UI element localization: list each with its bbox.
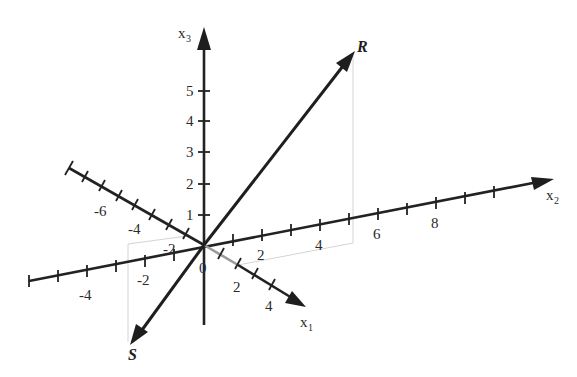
x1-tick-labels: -6 -4 -2 2 4 <box>94 203 273 314</box>
coordinate-diagram: R S x 3 x 2 x 1 0 1 2 3 4 5 -4 -2 2 4 6 … <box>0 0 577 377</box>
svg-text:x: x <box>546 187 554 203</box>
svg-text:4: 4 <box>315 237 323 253</box>
svg-text:4: 4 <box>186 113 194 129</box>
r-arrowhead-icon <box>336 51 355 72</box>
svg-text:4: 4 <box>265 298 273 314</box>
svg-text:-2: -2 <box>163 241 176 257</box>
svg-text:3: 3 <box>186 33 191 44</box>
svg-text:-2: -2 <box>137 272 150 288</box>
x2-axis-label: x 2 <box>546 187 559 206</box>
vector-s: S <box>128 245 204 363</box>
svg-text:-6: -6 <box>94 203 107 219</box>
svg-text:8: 8 <box>431 215 439 231</box>
x3-axis <box>197 27 211 325</box>
svg-text:2: 2 <box>186 176 194 192</box>
s-floor-projection <box>128 236 187 244</box>
origin-label: 0 <box>199 260 207 276</box>
svg-text:1: 1 <box>308 322 313 333</box>
svg-text:6: 6 <box>373 226 381 242</box>
x2-axis <box>29 177 554 287</box>
x1-arrowhead-icon <box>285 291 306 307</box>
svg-text:-4: -4 <box>128 221 141 237</box>
svg-text:2: 2 <box>233 279 241 295</box>
svg-text:2: 2 <box>554 195 559 206</box>
vector-r-label: R <box>356 38 368 55</box>
x3-axis-label: x 3 <box>178 25 191 44</box>
svg-text:x: x <box>178 25 186 41</box>
vector-r: R <box>204 38 368 245</box>
vector-s-label: S <box>128 346 137 363</box>
svg-text:-4: -4 <box>79 287 92 303</box>
r-floor-projection <box>238 243 353 265</box>
svg-text:x: x <box>300 314 308 330</box>
x1-axis-label: x 1 <box>300 314 313 333</box>
svg-text:3: 3 <box>186 144 194 160</box>
x3-tick-labels: 1 2 3 4 5 <box>186 83 194 223</box>
svg-text:5: 5 <box>186 83 194 99</box>
x3-arrowhead-icon <box>197 27 211 50</box>
svg-text:2: 2 <box>257 247 265 263</box>
svg-text:1: 1 <box>186 207 194 223</box>
